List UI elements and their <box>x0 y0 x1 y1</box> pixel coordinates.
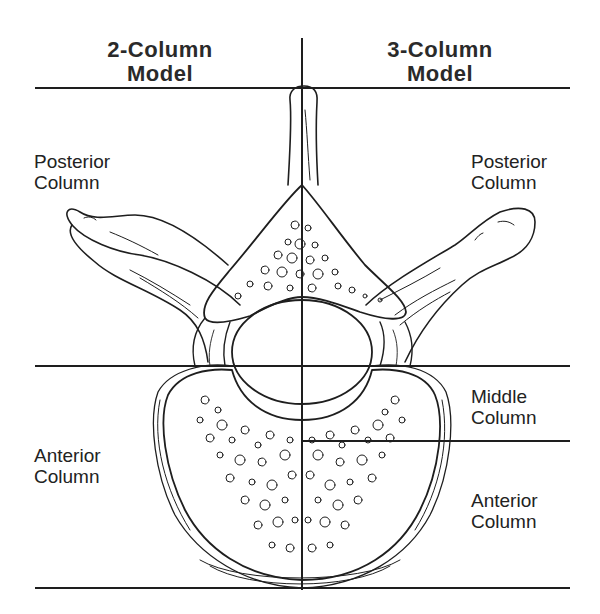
left-posterior-line2: Column <box>34 172 110 193</box>
header-left-line2: Model <box>60 62 260 86</box>
lamina-trabeculae <box>235 221 382 302</box>
left-anterior-line1: Anterior <box>34 445 101 466</box>
header-2-column-model: 2-Column Model <box>60 38 260 86</box>
header-right-line1: 3-Column <box>340 38 540 62</box>
left-anterior-line2: Column <box>34 466 101 487</box>
left-transverse-process <box>67 209 240 362</box>
header-right-line2: Model <box>340 62 540 86</box>
header-3-column-model: 3-Column Model <box>340 38 540 86</box>
right-posterior-column-label: Posterior Column <box>471 151 547 193</box>
right-middle-line2: Column <box>471 407 536 428</box>
right-posterior-line2: Column <box>471 172 547 193</box>
right-middle-line1: Middle <box>471 386 536 407</box>
right-anterior-line2: Column <box>471 511 538 532</box>
left-anterior-column-label: Anterior Column <box>34 445 101 487</box>
lamina <box>204 185 406 322</box>
right-middle-column-label: Middle Column <box>471 386 536 428</box>
right-transverse-process <box>366 208 535 362</box>
spine-column-model-diagram: 2-Column Model 3-Column Model Posterior … <box>0 0 600 614</box>
right-posterior-line1: Posterior <box>471 151 547 172</box>
header-left-line1: 2-Column <box>60 38 260 62</box>
right-anterior-column-label: Anterior Column <box>471 490 538 532</box>
left-posterior-column-label: Posterior Column <box>34 151 110 193</box>
left-posterior-line1: Posterior <box>34 151 110 172</box>
right-anterior-line1: Anterior <box>471 490 538 511</box>
